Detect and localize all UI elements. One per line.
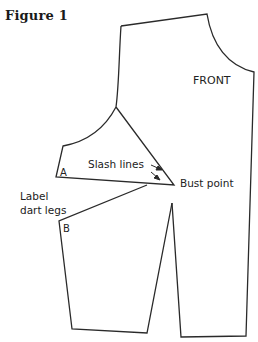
bust-point-label: Bust point: [180, 177, 234, 189]
bodice-pattern-diagram: FRONT Slash lines Bust point Label dart …: [0, 0, 258, 342]
slash-lines-label: Slash lines: [88, 158, 144, 170]
label-dart-legs-line1: Label: [20, 190, 48, 202]
label-dart-legs-line2: dart legs: [20, 204, 66, 216]
point-b-label: B: [63, 223, 70, 234]
upper-bodice-outline: [121, 14, 254, 337]
lower-bodice-outline: [59, 185, 172, 333]
front-label: FRONT: [193, 74, 231, 87]
point-a-label: A: [60, 167, 67, 178]
